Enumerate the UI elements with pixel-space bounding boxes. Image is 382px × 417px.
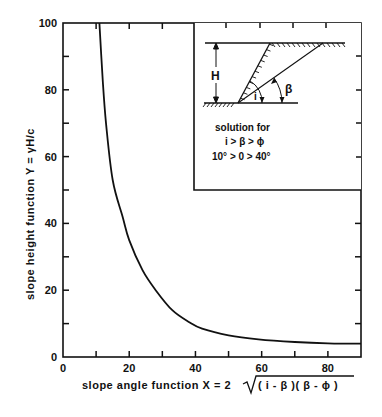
x-axis-label-radicand: ( i - β )( β - ϕ ) <box>258 379 338 391</box>
x-tick-label: 80 <box>322 362 334 374</box>
height-label: H <box>211 69 220 83</box>
y-tick-label: 80 <box>45 84 57 96</box>
solution-for-text: solution for <box>215 122 270 133</box>
x-axis-label-prefix: slope angle function X = 2 <box>82 379 231 391</box>
y-tick-label: 40 <box>45 217 57 229</box>
angle-beta-label: β <box>285 82 292 96</box>
x-tick-label: 60 <box>256 362 268 374</box>
angle-i-label: i <box>254 91 257 102</box>
x-tick-label: 40 <box>189 362 201 374</box>
inset-diagram: H i β solution for i > β > ϕ 10° > 0 > 4… <box>194 23 361 190</box>
inequality-text: i > β > ϕ <box>225 136 265 147</box>
y-tick-label: 100 <box>39 17 57 29</box>
chart-canvas: 020406080100 020406080 H <box>0 0 382 417</box>
y-tick-label: 0 <box>51 351 57 363</box>
x-tick-labels: 020406080 <box>60 362 334 374</box>
range-text: 10° > 0 > 40° <box>212 151 271 162</box>
x-tick-label: 0 <box>60 362 66 374</box>
y-tick-label: 20 <box>45 284 57 296</box>
y-tick-label: 60 <box>45 151 57 163</box>
y-tick-labels: 020406080100 <box>39 17 57 363</box>
x-axis-label: slope angle function X = 2 ( i - β )( β … <box>82 376 354 393</box>
x-tick-label: 20 <box>123 362 135 374</box>
y-axis-label: slope height function Y = γH/c <box>24 128 36 300</box>
